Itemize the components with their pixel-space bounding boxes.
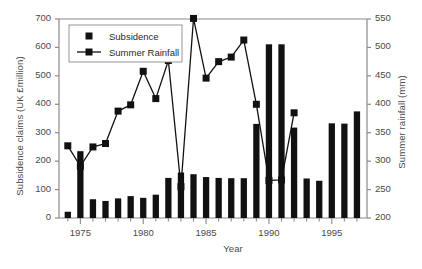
bar-subsidence bbox=[140, 198, 146, 218]
y-axis-left-tick-label: 100 bbox=[21, 183, 51, 194]
bar-subsidence bbox=[102, 201, 108, 218]
rainfall-marker bbox=[102, 140, 109, 147]
y-axis-right-tick-label: 400 bbox=[375, 97, 407, 108]
bar-subsidence bbox=[190, 174, 196, 218]
y-axis-right-tick-label: 300 bbox=[375, 154, 407, 165]
bar-subsidence bbox=[354, 111, 360, 218]
bar-subsidence bbox=[253, 124, 259, 218]
bar-subsidence bbox=[65, 212, 71, 218]
legend-label: Summer Rainfall bbox=[109, 47, 179, 58]
rainfall-marker bbox=[240, 37, 247, 44]
legend-marker-sample bbox=[86, 49, 93, 56]
legend-marker-sample bbox=[86, 33, 93, 40]
rainfall-marker bbox=[177, 183, 184, 190]
bar-subsidence bbox=[115, 198, 121, 218]
y-axis-right-tick-label: 200 bbox=[375, 211, 407, 222]
bar-subsidence bbox=[90, 199, 96, 218]
subsidence-rainfall-chart: Subsidence claims (UK £million) Summer r… bbox=[0, 0, 422, 269]
bar-subsidence bbox=[228, 178, 234, 218]
bar-subsidence bbox=[329, 123, 335, 218]
y-axis-left-tick-label: 300 bbox=[21, 126, 51, 137]
rainfall-marker bbox=[89, 143, 96, 150]
rainfall-marker bbox=[203, 75, 210, 82]
rainfall-marker bbox=[127, 101, 134, 108]
bar-subsidence bbox=[203, 177, 209, 218]
rainfall-marker bbox=[190, 15, 197, 22]
x-axis-tick-label: 1985 bbox=[186, 227, 226, 238]
y-axis-left-tick-label: 500 bbox=[21, 69, 51, 80]
x-axis-tick-label: 1990 bbox=[249, 227, 289, 238]
rainfall-marker bbox=[253, 101, 260, 108]
rainfall-marker bbox=[64, 142, 71, 149]
y-axis-left-tick-label: 400 bbox=[21, 97, 51, 108]
y-axis-right-tick-label: 350 bbox=[375, 126, 407, 137]
y-axis-right-tick-label: 250 bbox=[375, 183, 407, 194]
bar-subsidence bbox=[304, 178, 310, 218]
y-axis-left-tick-label: 200 bbox=[21, 154, 51, 165]
rainfall-marker bbox=[278, 176, 285, 183]
y-axis-left-tick-label: 600 bbox=[21, 40, 51, 51]
rainfall-marker bbox=[152, 95, 159, 102]
x-axis-tick-label: 1995 bbox=[312, 227, 352, 238]
bar-subsidence bbox=[128, 196, 134, 218]
bar-subsidence bbox=[291, 128, 297, 218]
x-axis-tick-label: 1975 bbox=[60, 227, 100, 238]
rainfall-marker bbox=[77, 163, 84, 170]
bar-subsidence bbox=[165, 178, 171, 218]
chart-legend: SubsidenceSummer Rainfall bbox=[69, 25, 182, 62]
rainfall-marker bbox=[291, 109, 298, 116]
bar-subsidence bbox=[241, 178, 247, 218]
rainfall-marker bbox=[228, 54, 235, 61]
bar-subsidence bbox=[316, 181, 322, 218]
bar-subsidence bbox=[216, 178, 222, 218]
bar-subsidence bbox=[341, 124, 347, 218]
rainfall-marker bbox=[265, 177, 272, 184]
rainfall-marker bbox=[140, 68, 147, 75]
y-axis-right-tick-label: 450 bbox=[375, 69, 407, 80]
rainfall-marker bbox=[215, 58, 222, 65]
bar-subsidence bbox=[77, 151, 83, 218]
y-axis-right-tick-label: 550 bbox=[375, 12, 407, 23]
bar-subsidence bbox=[278, 44, 284, 218]
legend-label: Subsidence bbox=[109, 31, 159, 42]
rainfall-marker bbox=[115, 108, 122, 115]
bar-subsidence bbox=[266, 44, 272, 218]
bar-subsidence bbox=[153, 195, 159, 218]
y-axis-left-tick-label: 0 bbox=[21, 211, 51, 222]
y-axis-left-tick-label: 700 bbox=[21, 12, 51, 23]
y-axis-right-tick-label: 500 bbox=[375, 40, 407, 51]
x-axis-tick-label: 1980 bbox=[123, 227, 163, 238]
